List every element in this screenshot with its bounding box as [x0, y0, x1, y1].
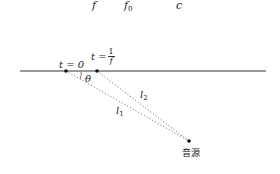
fraction-denominator: f — [110, 57, 113, 65]
label-theta: θ — [85, 74, 91, 84]
label-t0: t = 0 — [59, 60, 84, 70]
label-t1-prefix: t = — [91, 52, 107, 62]
angle-arc — [80, 72, 81, 79]
label-l1-sub: 1 — [119, 110, 123, 118]
label-l2-sub: 2 — [143, 94, 147, 102]
point-t1 — [95, 69, 99, 73]
path-l2 — [97, 71, 189, 141]
label-l2: l2 — [140, 90, 148, 103]
label-l1: l1 — [116, 106, 124, 119]
point-source — [187, 139, 191, 143]
label-t1-fraction: 1 f — [108, 48, 115, 65]
doppler-diagram — [0, 0, 280, 174]
label-sound-source: 音源 — [182, 146, 200, 159]
label-t1: t = 1 f — [91, 48, 115, 65]
